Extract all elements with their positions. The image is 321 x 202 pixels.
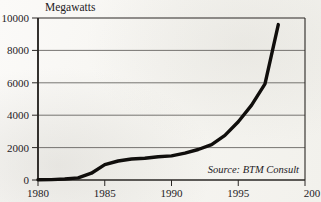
x-tick-label-1995: 1995: [227, 187, 250, 199]
y-tick-label-2000: 2000: [7, 142, 30, 154]
gridlines: [38, 50, 305, 147]
x-tick-label-1985: 1985: [94, 187, 117, 199]
data-series-line: [38, 25, 278, 180]
y-tick-label-10000: 10000: [2, 12, 30, 24]
x-tick-labels: 1980 1985 1990 1995 200: [27, 187, 321, 199]
y-axis-title: Megawatts: [45, 1, 96, 14]
chart-container: 10000 8000 6000 4000 2000 0 1980 1985 19…: [0, 0, 321, 202]
y-tick-labels: 10000 8000 6000 4000 2000 0: [2, 12, 30, 186]
x-tick-label-2000: 200: [304, 187, 321, 199]
line-chart: 10000 8000 6000 4000 2000 0 1980 1985 19…: [0, 0, 321, 202]
y-tick-label-8000: 8000: [7, 44, 30, 56]
y-tick-label-0: 0: [24, 174, 30, 186]
x-tick-label-1980: 1980: [27, 187, 50, 199]
x-tickmarks: [38, 180, 305, 186]
y-tick-label-4000: 4000: [7, 109, 30, 121]
y-tick-label-6000: 6000: [7, 77, 30, 89]
x-tick-label-1990: 1990: [161, 187, 184, 199]
source-note: Source: BTM Consult: [208, 164, 300, 175]
